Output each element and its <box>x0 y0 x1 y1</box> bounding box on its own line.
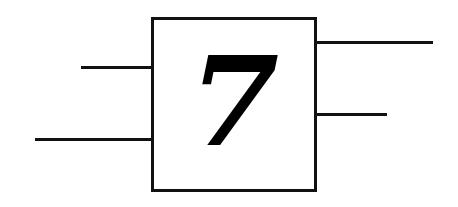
input-line-bottom <box>35 138 153 141</box>
output-line-bottom <box>312 113 387 116</box>
block-box: 7 <box>151 17 317 192</box>
block-label: 7 <box>150 40 318 164</box>
output-line-top <box>312 41 433 44</box>
input-line-top <box>81 66 153 69</box>
